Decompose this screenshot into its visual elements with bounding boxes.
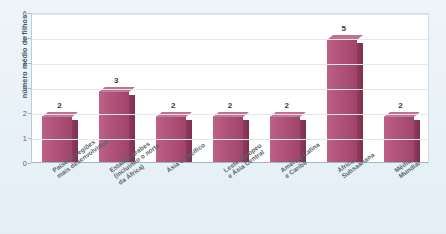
y-tick-mark <box>28 13 31 14</box>
bar-value-label: 2 <box>39 101 79 110</box>
bar-value-label: 2 <box>267 101 307 110</box>
bar-front-face <box>327 39 357 163</box>
gridline <box>32 39 428 40</box>
bar-value-label: 2 <box>381 101 421 110</box>
y-tick-label: 4 <box>3 59 27 68</box>
gridline <box>32 89 428 90</box>
y-tick-label: 1 <box>3 134 27 143</box>
y-tick-mark <box>28 138 31 139</box>
y-tick-mark <box>28 88 31 89</box>
y-tick-mark <box>28 163 31 164</box>
bar-value-label: 5 <box>324 24 364 33</box>
bar-value-label: 2 <box>153 101 193 110</box>
bar-chart: número médio de filhos 0123456 Países e … <box>0 0 446 234</box>
bar-value-label: 2 <box>210 101 250 110</box>
y-tick-label: 3 <box>3 84 27 93</box>
gridline <box>32 64 428 65</box>
bar[interactable] <box>327 40 357 163</box>
y-tick-label: 6 <box>3 9 27 18</box>
y-tick-mark <box>28 113 31 114</box>
bar-front-face <box>99 91 129 162</box>
bar-side-face <box>357 43 363 163</box>
y-tick-label: 0 <box>3 159 27 168</box>
bar[interactable] <box>99 92 129 162</box>
gridline <box>32 14 428 15</box>
y-tick-mark <box>28 38 31 39</box>
y-tick-label: 5 <box>3 34 27 43</box>
y-tick-label: 2 <box>3 109 27 118</box>
bar-value-label: 3 <box>96 76 136 85</box>
gridline <box>32 114 428 115</box>
y-tick-mark <box>28 63 31 64</box>
